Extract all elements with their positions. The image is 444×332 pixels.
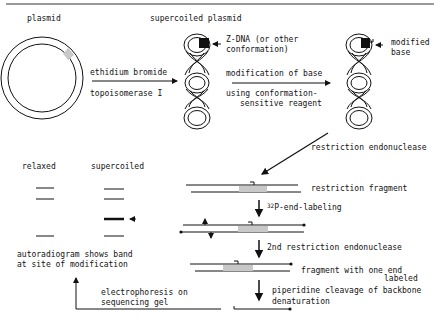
modified-annotation-2: base xyxy=(391,48,410,58)
gel-lane-supercoiled-label: supercoiled xyxy=(91,162,144,172)
z-dna-marker xyxy=(199,38,209,48)
result-label-2: at site of modification xyxy=(17,260,128,270)
result-label-1: autoradiogram shows band xyxy=(17,250,133,260)
modified-base-marker xyxy=(361,38,370,48)
fragment2-label-2: labeled xyxy=(384,274,418,284)
z-dna-annotation-1: Z-DNA (or other xyxy=(226,35,298,45)
step3-label: restriction endonuclease xyxy=(311,143,427,153)
end-labeled-fragment-icon xyxy=(179,219,305,238)
gel-relaxed-lane xyxy=(36,188,54,236)
step4-text: P-end-labeling xyxy=(274,203,341,212)
step5-label: 2nd restriction endonuclease xyxy=(267,243,402,253)
diagram-canvas xyxy=(0,0,444,332)
step7-label-1: electrophoresis on xyxy=(101,288,188,298)
step2-bottom-1: using conformation- xyxy=(226,89,318,99)
restriction-fragment-label: restriction fragment xyxy=(311,184,407,194)
step6-label-1: piperidine cleavage of backbone xyxy=(272,286,421,296)
step2-bottom-2: sensitive reagent xyxy=(240,99,322,109)
step6-label-2: denaturation xyxy=(272,297,330,307)
restriction-fragment-icon xyxy=(186,182,301,192)
modified-plasmid-icon xyxy=(346,34,372,129)
step4-label: 32P-end-labeling xyxy=(267,203,342,213)
plasmid-label: plasmid xyxy=(27,14,61,24)
z-dna-annotation-2: conformation) xyxy=(226,45,289,55)
single-labeled-fragment-icon xyxy=(190,261,293,271)
gel-supercoiled-lane xyxy=(104,189,136,236)
arrow-step3 xyxy=(262,133,328,174)
step1-reagent-bottom: topoisomerase I xyxy=(90,89,162,99)
step7-label-2: sequencing gel xyxy=(101,298,168,308)
supercoiled-plasmid-icon xyxy=(184,34,210,129)
modified-annotation-1: modified xyxy=(391,38,430,48)
isotope-superscript: 32 xyxy=(267,202,274,209)
relaxed-plasmid-icon xyxy=(1,37,83,119)
supercoiled-plasmid-label: supercoiled plasmid xyxy=(150,14,242,24)
gel-lane-relaxed-label: relaxed xyxy=(22,162,56,172)
step1-reagent-top: ethidium bromide xyxy=(90,68,167,78)
step2-top: modification of base xyxy=(226,69,322,79)
